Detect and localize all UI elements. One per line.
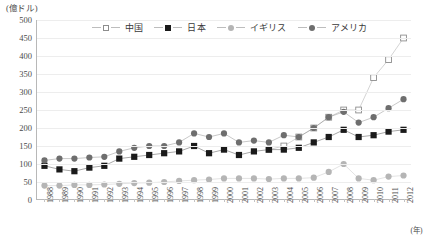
data-point-marker [131,180,137,186]
data-point-marker [371,114,377,120]
x-axis-tick [359,199,360,202]
x-axis-tick [254,199,255,202]
x-axis-tick-label: 1996 [166,187,175,203]
legend-entry-アメリカ[interactable]: アメリカ [298,21,368,34]
x-axis-tick-label: 2009 [361,187,370,203]
legend-line-segment [111,27,120,28]
data-point-marker [221,130,227,136]
data-point-marker [116,148,122,154]
gridline [37,38,411,39]
x-axis-tick [224,199,225,202]
legend-label: 日本 [187,21,205,34]
x-axis-tick-label: 1990 [76,187,85,203]
y-axis-tick-label: 150 [2,141,32,151]
x-axis-tick-label: 2002 [256,187,265,203]
x-axis-tick [389,199,390,202]
legend-label: アメリカ [331,21,368,34]
data-point-marker [326,134,332,140]
data-point-marker [400,96,406,102]
data-point-marker [176,139,182,145]
data-point-marker [251,148,257,154]
x-axis-tick-label: 1989 [61,187,70,203]
data-point-marker [356,134,362,140]
data-point-marker [176,178,182,184]
data-point-marker [116,156,122,162]
x-axis-tick [299,199,300,202]
data-point-marker [385,129,391,135]
data-point-marker [281,147,287,153]
legend-line-segment [317,27,326,28]
data-point-marker [266,147,272,153]
x-axis-tick [344,199,345,202]
x-axis-tick-label: 1999 [211,187,220,203]
data-point-marker [386,57,392,63]
data-point-marker [296,175,302,181]
data-point-marker [176,148,182,154]
data-point-marker [311,175,317,181]
x-axis-tick [329,199,330,202]
x-axis-tick-label: 1994 [136,187,145,203]
x-axis-tick [239,199,240,202]
x-axis-tick-label: 1993 [121,187,130,203]
data-point-marker [71,156,77,162]
data-point-marker [371,132,377,138]
legend-entry-イギリス[interactable]: イギリス [217,21,287,34]
series-イギリス [41,161,406,189]
data-point-marker [56,166,62,172]
chart-legend: 中国日本イギリスアメリカ [92,21,367,34]
y-axis-unit-label: (億ドル) [6,1,37,13]
legend-label: 中国 [125,21,143,34]
data-point-marker [131,154,137,160]
data-point-marker [221,175,227,181]
gridline [37,110,411,111]
series-中国 [266,35,406,152]
data-point-marker [356,175,362,181]
data-point-marker [206,150,212,156]
x-axis-tick [179,199,180,202]
legend-entry-日本[interactable]: 日本 [154,21,205,34]
data-point-marker [251,138,257,144]
x-axis-tick-label: 2007 [331,187,340,203]
gridline [37,182,411,183]
x-axis-unit-label: (年) [411,224,423,235]
data-point-marker [236,152,242,158]
x-axis-tick [164,199,165,202]
x-axis-tick [374,199,375,202]
legend-entry-中国[interactable]: 中国 [92,21,143,34]
data-point-marker [296,134,302,140]
legend-marker-icon [165,25,171,31]
legend-line-segment [92,27,101,28]
gridline [37,164,411,165]
series-アメリカ [41,96,406,163]
data-point-marker [191,130,197,136]
legend-line-segment [236,27,245,28]
data-point-marker [41,157,47,163]
data-point-marker [281,132,287,138]
x-axis-tick-label: 2012 [406,187,415,203]
y-axis-tick-label: 50 [2,177,32,187]
data-point-marker [236,175,242,181]
gridline [37,74,411,75]
x-axis-tick-label: 1998 [196,187,205,203]
data-point-marker [221,147,227,153]
plot-area [36,20,410,200]
data-point-marker [86,154,92,160]
data-point-marker [385,174,391,180]
x-axis-tick [209,199,210,202]
data-point-marker [371,75,377,81]
x-axis-tick-label: 1995 [151,187,160,203]
data-point-marker [326,114,332,120]
data-point-marker [326,169,332,175]
x-axis-tick [269,199,270,202]
x-axis-tick-label: 2000 [226,187,235,203]
x-axis-tick-label: 2011 [391,187,400,203]
gridline [37,56,411,57]
gridline [37,128,411,129]
data-point-marker [146,152,152,158]
data-point-marker [71,168,77,174]
data-point-marker [56,156,62,162]
x-axis-tick-label: 1997 [181,187,190,203]
y-axis-tick-label: 300 [2,87,32,97]
x-axis-tick-label: 1992 [106,187,115,203]
